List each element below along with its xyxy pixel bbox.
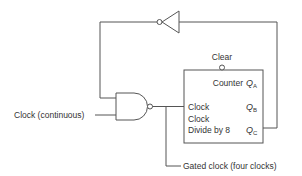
nand-bubble: [148, 104, 153, 109]
qb-subscript: B: [253, 107, 257, 113]
clear-bubble: [220, 65, 225, 70]
divide-label: Divide by 8: [188, 125, 230, 135]
inverter-bubble: [157, 20, 162, 25]
clock-input-label: Clock (continuous): [14, 110, 85, 120]
feedback-wire-left: [100, 22, 157, 98]
gated-clock-label: Gated clock (four clocks): [183, 161, 277, 171]
qc-subscript: C: [253, 130, 258, 136]
clock-pin-label: Clock: [188, 102, 210, 112]
qa-subscript: A: [253, 83, 257, 89]
clock2-label: Clock: [188, 114, 210, 124]
nand-gate: [116, 93, 148, 120]
qc-label: Q: [246, 125, 253, 135]
gated-clock-branch: [166, 107, 181, 167]
circuit-diagram: Clock (continuous) Gated clock (four clo…: [0, 0, 302, 176]
counter-label: Counter: [213, 78, 243, 88]
qb-label: Q: [246, 102, 253, 112]
clear-label: Clear: [212, 52, 232, 62]
inverter-gate: [162, 11, 179, 33]
qa-label: Q: [246, 78, 253, 88]
